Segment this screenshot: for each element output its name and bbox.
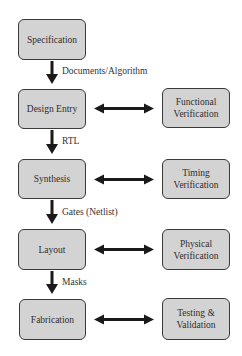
box-synthesis: Synthesis [18, 159, 86, 199]
flow-label-rtl: RTL [62, 136, 79, 147]
box-label: Testing & Validation [176, 307, 215, 331]
box-label: Functional Verification [174, 96, 219, 120]
box-label: Layout [39, 244, 66, 256]
box-fabrication: Fabrication [19, 299, 86, 340]
box-label: Physical Verification [174, 238, 219, 262]
flow-label-masks: Masks [62, 277, 87, 288]
box-testing-validation: Testing & Validation [162, 298, 230, 340]
box-label: Synthesis [34, 173, 70, 185]
box-physical-verification: Physical Verification [162, 229, 230, 270]
flow-label-gates-netlist: Gates (Netlist) [62, 207, 118, 218]
box-timing-verification: Timing Verification [162, 159, 230, 199]
box-label: Specification [27, 34, 77, 46]
box-label: Timing Verification [174, 167, 219, 191]
box-specification: Specification [18, 19, 86, 60]
double-arrow-layout-physical [94, 245, 154, 255]
box-label: Fabrication [31, 314, 74, 326]
flow-arrow-design-to-synthesis [46, 130, 58, 154]
flow-label-documents-algorithm: Documents/Algorithm [62, 66, 148, 77]
double-arrow-fabrication-testing [94, 315, 154, 325]
box-functional-verification: Functional Verification [162, 88, 230, 128]
flow-arrow-spec-to-design [46, 61, 58, 84]
box-label: Design Entry [27, 103, 77, 115]
double-arrow-synthesis-timing [94, 175, 154, 185]
double-arrow-design-functional [94, 104, 154, 114]
box-layout: Layout [18, 229, 86, 270]
box-design-entry: Design Entry [18, 89, 86, 129]
flow-arrow-layout-to-fabrication [46, 271, 58, 294]
flow-arrow-synthesis-to-layout [46, 200, 58, 224]
